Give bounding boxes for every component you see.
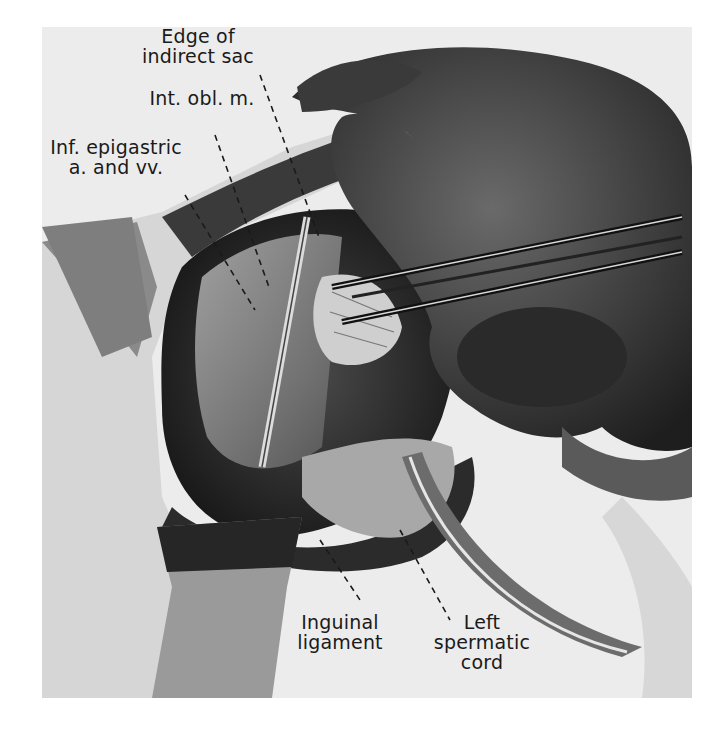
label-edge-of-indirect-sac: Edge of indirect sac [128, 26, 268, 66]
anatomical-drawing [42, 27, 692, 698]
illustration-plate [42, 27, 692, 698]
label-left-spermatic-cord: Left spermatic cord [422, 612, 542, 672]
label-int-obl-m: Int. obl. m. [132, 88, 272, 108]
label-inf-epigastric: Inf. epigastric a. and vv. [36, 137, 196, 177]
label-inguinal-ligament: Inguinal ligament [290, 612, 390, 652]
